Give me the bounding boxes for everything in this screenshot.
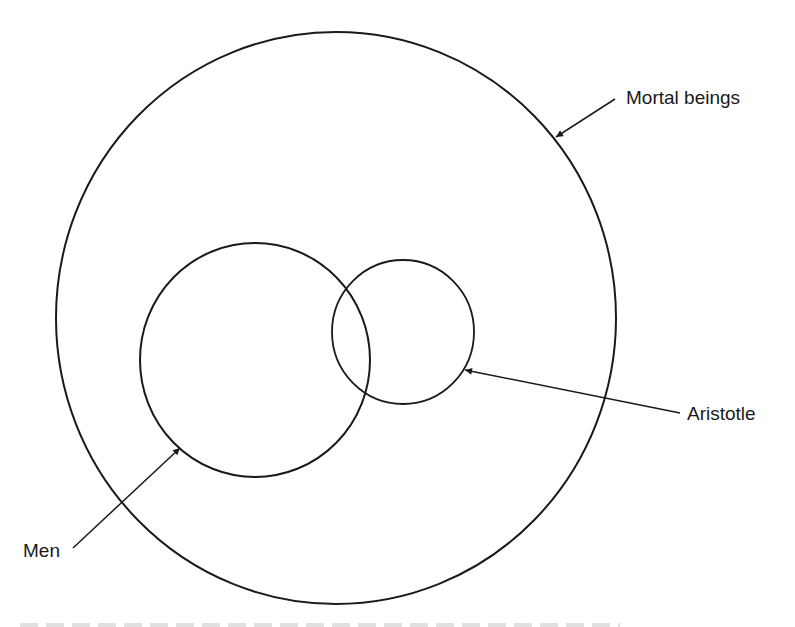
aristotle-circle	[332, 260, 474, 404]
men-circle	[140, 243, 370, 477]
mortal-beings-label: Mortal beings	[626, 88, 740, 107]
clipped-caption	[20, 623, 620, 627]
aristotle-arrow	[465, 370, 680, 413]
men-arrow	[73, 448, 180, 548]
euler-diagram: Mortal beings Aristotle Men	[0, 0, 795, 627]
mortal-beings-circle	[56, 32, 616, 604]
aristotle-label: Aristotle	[687, 404, 756, 423]
men-label: Men	[23, 541, 60, 560]
mortal-beings-arrow	[556, 99, 615, 137]
